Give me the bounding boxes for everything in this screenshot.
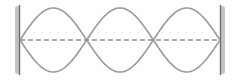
left-wall-shade — [15, 6, 19, 74]
right-wall-shade — [221, 6, 225, 74]
left-wall — [15, 5, 20, 75]
standing-wave-diagram — [0, 0, 234, 80]
right-wall — [221, 5, 226, 75]
